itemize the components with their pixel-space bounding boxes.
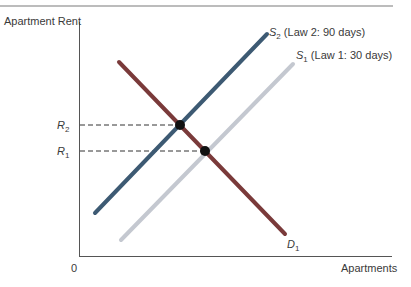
r2-tick-label: R2 [57, 119, 70, 134]
s2-label: S2 (Law 2: 90 days) [269, 26, 365, 41]
x-axis-label: Apartments [341, 262, 398, 274]
supply-demand-chart: Apartment Rent Apartments 0 R2 R1 S2 (La… [0, 0, 411, 287]
equilibrium-point-r1 [200, 146, 210, 156]
r1-tick-label: R1 [57, 145, 70, 160]
origin-label: 0 [71, 262, 77, 274]
s1-label: S1 (Law 1: 30 days) [296, 49, 392, 64]
d1-label: D1 [287, 238, 300, 253]
equilibrium-point-r2 [175, 120, 185, 130]
y-axis-label: Apartment Rent [4, 15, 81, 27]
